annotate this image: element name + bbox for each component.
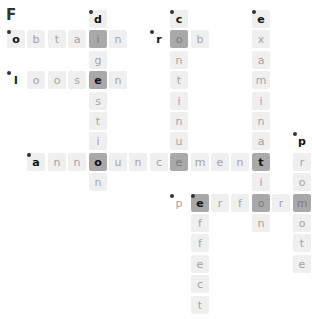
cell-letter: n bbox=[95, 176, 102, 189]
grid-cell[interactable]: g bbox=[89, 51, 107, 69]
grid-cell[interactable]: o bbox=[252, 194, 270, 212]
grid-cell[interactable]: r bbox=[211, 194, 229, 212]
grid-cell[interactable]: x bbox=[252, 30, 270, 48]
cell-letter: n bbox=[258, 217, 265, 230]
grid-cell[interactable]: n bbox=[231, 153, 249, 171]
cell-letter: e bbox=[197, 258, 204, 271]
grid-cell[interactable]: o bbox=[170, 30, 188, 48]
grid-cell[interactable]: e bbox=[170, 153, 188, 171]
grid-cell[interactable]: f bbox=[231, 194, 249, 212]
grid-cell[interactable]: n bbox=[252, 214, 270, 232]
grid-cell[interactable]: m bbox=[252, 71, 270, 89]
cell-letter: t bbox=[198, 299, 202, 312]
cell-letter: t bbox=[300, 237, 304, 250]
crossword-grid: dceobtainrobxgnaloosentmsiitnniuapannoun… bbox=[0, 0, 312, 319]
cell-letter: p bbox=[298, 135, 306, 148]
cell-letter: s bbox=[74, 74, 80, 87]
clue-start-dot-icon bbox=[170, 10, 174, 14]
cell-letter: x bbox=[258, 33, 265, 46]
grid-cell[interactable]: b bbox=[191, 30, 209, 48]
grid-cell[interactable]: l bbox=[7, 71, 25, 89]
cell-letter: r bbox=[300, 156, 305, 169]
grid-cell[interactable]: u bbox=[109, 153, 127, 171]
grid-cell[interactable]: e bbox=[211, 153, 229, 171]
grid-cell[interactable]: t bbox=[252, 153, 270, 171]
clue-start-dot-icon bbox=[89, 10, 93, 14]
grid-cell[interactable]: r bbox=[150, 30, 168, 48]
clue-start-dot-icon bbox=[252, 10, 256, 14]
grid-cell[interactable]: n bbox=[68, 153, 86, 171]
grid-cell[interactable]: n bbox=[109, 30, 127, 48]
grid-cell[interactable]: a bbox=[68, 30, 86, 48]
grid-cell[interactable]: a bbox=[252, 51, 270, 69]
grid-cell[interactable]: n bbox=[252, 112, 270, 130]
grid-cell[interactable]: o bbox=[27, 71, 45, 89]
grid-cell[interactable]: n bbox=[48, 153, 66, 171]
grid-cell[interactable]: i bbox=[170, 92, 188, 110]
grid-cell[interactable]: b bbox=[27, 30, 45, 48]
grid-cell[interactable]: r bbox=[272, 194, 290, 212]
grid-cell[interactable]: a bbox=[27, 153, 45, 171]
cell-letter: a bbox=[74, 33, 81, 46]
cell-letter: n bbox=[74, 156, 81, 169]
cell-letter: m bbox=[256, 74, 267, 87]
grid-cell[interactable]: o bbox=[293, 173, 311, 191]
grid-cell[interactable]: e bbox=[293, 255, 311, 273]
grid-cell[interactable]: n bbox=[109, 71, 127, 89]
grid-cell[interactable]: c bbox=[170, 10, 188, 28]
grid-cell[interactable]: t bbox=[48, 30, 66, 48]
cell-letter: e bbox=[196, 197, 203, 210]
grid-cell[interactable]: t bbox=[293, 234, 311, 252]
grid-cell[interactable]: d bbox=[89, 10, 107, 28]
grid-cell[interactable]: n bbox=[170, 112, 188, 130]
cell-letter: r bbox=[218, 197, 223, 210]
grid-cell[interactable]: m bbox=[191, 153, 209, 171]
cell-letter: e bbox=[257, 13, 264, 26]
cell-letter: g bbox=[95, 54, 102, 67]
grid-cell[interactable]: r bbox=[293, 153, 311, 171]
grid-cell[interactable]: i bbox=[252, 173, 270, 191]
grid-cell[interactable]: t bbox=[191, 296, 209, 314]
grid-cell[interactable]: o bbox=[48, 71, 66, 89]
grid-cell[interactable]: s bbox=[68, 71, 86, 89]
grid-cell[interactable]: s bbox=[89, 92, 107, 110]
grid-cell[interactable]: e bbox=[191, 255, 209, 273]
cell-letter: t bbox=[177, 74, 181, 87]
grid-cell[interactable]: e bbox=[89, 71, 107, 89]
grid-cell[interactable]: o bbox=[293, 214, 311, 232]
grid-cell[interactable]: e bbox=[191, 194, 209, 212]
grid-cell[interactable]: n bbox=[170, 51, 188, 69]
cell-letter: o bbox=[176, 33, 183, 46]
grid-cell[interactable]: m bbox=[293, 194, 311, 212]
grid-cell[interactable]: f bbox=[191, 214, 209, 232]
cell-letter: f bbox=[238, 197, 242, 210]
grid-cell[interactable]: o bbox=[89, 153, 107, 171]
grid-cell[interactable]: u bbox=[170, 132, 188, 150]
cell-letter: l bbox=[14, 74, 18, 87]
grid-cell[interactable]: i bbox=[252, 92, 270, 110]
grid-cell[interactable]: f bbox=[191, 234, 209, 252]
cell-letter: n bbox=[54, 156, 61, 169]
clue-start-dot-icon bbox=[150, 30, 154, 34]
cell-letter: r bbox=[156, 33, 161, 46]
grid-cell[interactable]: n bbox=[89, 173, 107, 191]
cell-letter: n bbox=[176, 115, 183, 128]
grid-cell[interactable]: t bbox=[170, 71, 188, 89]
grid-cell[interactable]: t bbox=[89, 112, 107, 130]
clue-start-dot-icon bbox=[293, 132, 297, 136]
grid-cell[interactable]: c bbox=[191, 275, 209, 293]
grid-cell[interactable]: p bbox=[170, 194, 188, 212]
grid-cell[interactable]: e bbox=[252, 10, 270, 28]
cell-letter: i bbox=[259, 95, 262, 108]
grid-cell[interactable]: o bbox=[7, 30, 25, 48]
grid-cell[interactable]: c bbox=[150, 153, 168, 171]
grid-cell[interactable]: i bbox=[89, 30, 107, 48]
grid-cell[interactable]: a bbox=[252, 132, 270, 150]
grid-cell[interactable]: i bbox=[89, 132, 107, 150]
cell-letter: a bbox=[32, 156, 39, 169]
grid-cell[interactable]: n bbox=[129, 153, 147, 171]
cell-letter: o bbox=[33, 74, 40, 87]
grid-cell[interactable]: p bbox=[293, 132, 311, 150]
cell-letter: o bbox=[258, 197, 265, 210]
cell-letter: n bbox=[115, 74, 122, 87]
